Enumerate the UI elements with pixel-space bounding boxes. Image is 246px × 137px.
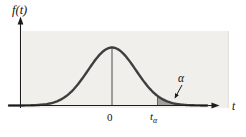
panel-background xyxy=(22,31,228,108)
origin-tick-label: 0 xyxy=(107,111,113,123)
y-axis-arrowhead-icon xyxy=(18,17,24,25)
critical-value-subscript: α xyxy=(153,116,158,125)
distribution-figure: f(t) t 0 tα α xyxy=(0,0,246,137)
x-axis-label: t xyxy=(232,100,236,112)
alpha-label: α xyxy=(178,72,185,84)
y-axis-label: f(t) xyxy=(12,3,27,17)
figure-canvas: f(t) t 0 tα α xyxy=(0,0,246,137)
critical-value-label: tα xyxy=(150,110,158,125)
